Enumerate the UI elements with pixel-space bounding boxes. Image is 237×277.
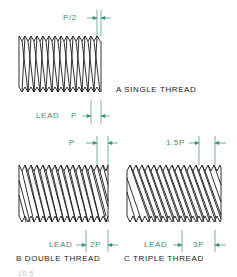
triple-thread-drawing xyxy=(127,165,221,222)
triple-thread-lead-label: LEAD xyxy=(144,241,167,249)
double-thread-dimensions xyxy=(76,136,118,252)
single-thread-caption: A SINGLE THREAD xyxy=(116,86,196,94)
triple-thread-pitch-label: 1.5P xyxy=(166,139,185,147)
single-thread-pitch-label: P xyxy=(71,112,77,120)
double-thread-drawing xyxy=(19,165,108,222)
triple-thread-lead-value: 3P xyxy=(193,241,204,249)
double-thread-lead-value: 2P xyxy=(90,241,101,249)
single-thread-dimensions xyxy=(82,10,111,124)
double-thread-lead-label: LEAD xyxy=(49,241,72,249)
single-thread-lead-label: LEAD xyxy=(36,112,59,120)
triple-thread-caption: C TRIPLE THREAD xyxy=(124,255,204,263)
double-thread-pitch-label: P xyxy=(69,139,75,147)
single-thread-drawing xyxy=(19,36,101,92)
double-thread-caption: B DOUBLE THREAD xyxy=(16,255,100,263)
figure-number-partial: 10.5 xyxy=(18,270,34,277)
single-thread-half-pitch-label: P/2 xyxy=(63,14,77,22)
